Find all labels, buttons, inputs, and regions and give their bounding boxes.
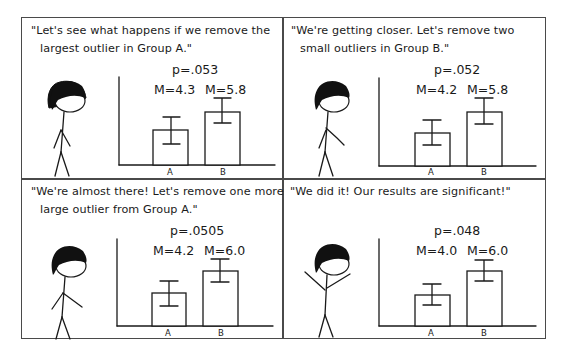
x-tick-b: B	[481, 328, 487, 338]
x-tick-a: A	[167, 167, 173, 177]
x-tick-a: A	[428, 328, 434, 338]
x-tick-a: A	[165, 328, 171, 338]
bar-chart	[283, 0, 566, 178]
x-tick-a: A	[428, 167, 434, 177]
panel-3: "We're almost there! Let's remove one mo…	[0, 178, 283, 357]
x-tick-b: B	[220, 167, 226, 177]
x-tick-b: B	[481, 167, 487, 177]
panel-4: "We did it! Our results are significant!…	[283, 178, 566, 357]
panel-1: "Let's see what happens if we remove the…	[0, 0, 283, 178]
x-tick-b: B	[218, 328, 224, 338]
bar-chart	[283, 178, 566, 357]
bar-chart	[0, 178, 283, 357]
panel-2: "We're getting closer. Let's remove two …	[283, 0, 566, 178]
bar-chart	[0, 0, 283, 178]
